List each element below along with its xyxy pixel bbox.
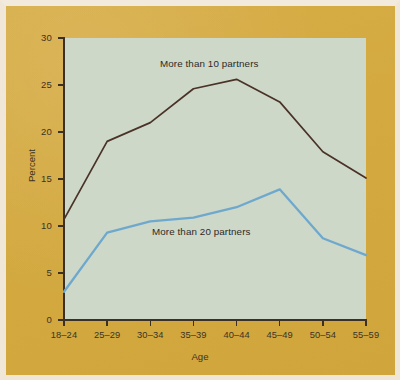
x-tick <box>365 320 366 326</box>
x-tick <box>150 320 151 326</box>
x-axis-title: Age <box>0 351 400 362</box>
y-tick-label: 25 <box>26 79 52 90</box>
x-tick <box>106 320 107 326</box>
y-tick <box>58 178 63 179</box>
y-axis-line <box>63 37 65 321</box>
y-tick <box>58 272 63 273</box>
series-label-more-than-10: More than 10 partners <box>160 58 259 69</box>
y-tick <box>58 84 63 85</box>
y-axis-title: Percent <box>26 126 37 206</box>
x-tick <box>322 320 323 326</box>
plot-area <box>64 38 366 320</box>
chart-figure: 051015202530 18–2425–2930–3435–3940–4445… <box>0 0 400 380</box>
x-tick <box>279 320 280 326</box>
y-tick <box>58 37 63 38</box>
y-tick-label: 0 <box>26 314 52 325</box>
plot-texture <box>64 38 366 320</box>
x-tick <box>236 320 237 326</box>
y-tick <box>58 225 63 226</box>
x-tick <box>193 320 194 326</box>
y-tick-label: 5 <box>26 267 52 278</box>
series-label-more-than-20: More than 20 partners <box>152 226 251 237</box>
y-tick-label: 30 <box>26 32 52 43</box>
x-tick <box>63 320 64 326</box>
y-tick <box>58 131 63 132</box>
y-tick <box>58 319 63 320</box>
x-tick-label: 55–59 <box>336 330 396 340</box>
y-tick-label: 10 <box>26 220 52 231</box>
